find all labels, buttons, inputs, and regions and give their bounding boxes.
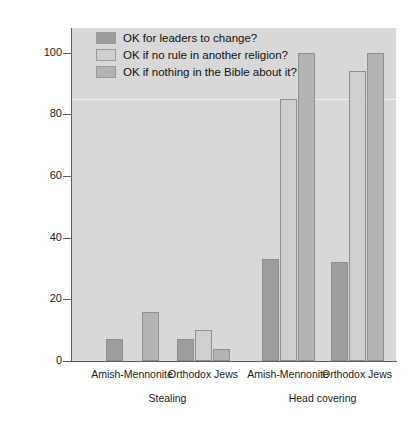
legend-item-label: OK if no rule in another religion?	[123, 48, 288, 62]
y-tick-mark	[34, 238, 72, 239]
bar	[195, 330, 212, 361]
bar	[213, 349, 230, 361]
x-category-label: Orthodox Jews	[307, 368, 407, 380]
y-tick-mark	[34, 299, 72, 300]
bar	[298, 53, 315, 361]
x-group-label: Head covering	[263, 392, 383, 404]
bar	[106, 339, 123, 361]
legend-item: OK for leaders to change?	[96, 30, 297, 46]
gridline	[72, 99, 396, 100]
bar	[331, 262, 348, 361]
bar-chart: Percentage saying yes 020406080100 Amish…	[0, 0, 413, 435]
bar	[349, 71, 366, 361]
legend-item-label: OK if nothing in the Bible about it?	[123, 65, 297, 79]
bar	[367, 53, 384, 361]
x-axis-line	[71, 361, 397, 362]
bar	[262, 259, 279, 361]
legend-swatch-icon	[96, 32, 116, 44]
x-group-label: Stealing	[108, 392, 228, 404]
legend-item: OK if nothing in the Bible about it?	[96, 64, 297, 80]
legend: OK for leaders to change? OK if no rule …	[96, 30, 297, 81]
y-tick-mark	[34, 114, 72, 115]
y-tick-mark	[34, 361, 72, 362]
legend-swatch-icon	[96, 66, 116, 78]
legend-item: OK if no rule in another religion?	[96, 47, 297, 63]
legend-item-label: OK for leaders to change?	[123, 31, 257, 45]
bar	[177, 339, 194, 361]
y-tick-mark	[34, 176, 72, 177]
bar	[280, 99, 297, 361]
legend-swatch-icon	[96, 49, 116, 61]
y-tick-mark	[34, 53, 72, 54]
bar	[142, 312, 159, 361]
